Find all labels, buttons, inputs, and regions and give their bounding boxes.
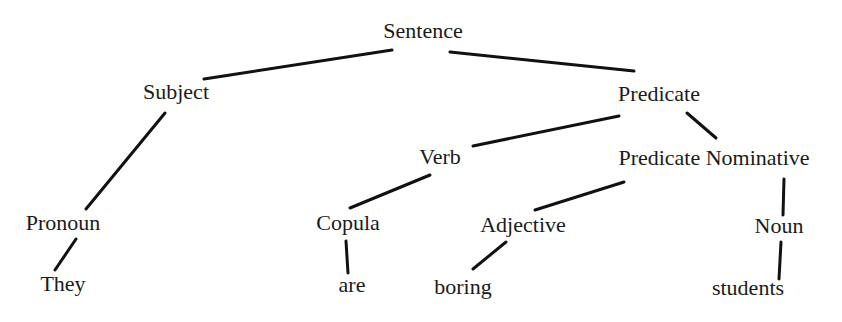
- edge-noun-students: [779, 242, 781, 279]
- node-predicate: Predicate: [618, 83, 700, 105]
- leaf-they: They: [40, 273, 85, 295]
- node-adjective: Adjective: [480, 214, 566, 236]
- edge-prednom-adjective: [535, 182, 624, 210]
- edge-sentence-predicate: [450, 52, 634, 71]
- node-subject: Subject: [143, 81, 209, 103]
- node-copula: Copula: [316, 212, 380, 234]
- edge-copula-are: [346, 241, 348, 273]
- parse-tree-diagram: Sentence Subject Predicate Verb Predicat…: [0, 0, 842, 322]
- edge-sentence-subject: [204, 50, 392, 79]
- node-sentence: Sentence: [383, 20, 462, 42]
- leaf-are: are: [339, 274, 366, 296]
- leaf-boring: boring: [434, 276, 491, 298]
- edge-pronoun-they: [55, 239, 76, 270]
- node-noun: Noun: [755, 215, 804, 237]
- node-verb: Verb: [419, 146, 461, 168]
- node-pronoun: Pronoun: [26, 212, 101, 234]
- node-predicate-nominative: Predicate Nominative: [618, 147, 809, 169]
- edge-predicate-prednom: [687, 113, 716, 138]
- edge-subject-pronoun: [86, 113, 165, 209]
- edge-predicate-verb: [473, 116, 619, 146]
- edge-adjective-boring: [473, 242, 506, 269]
- leaf-students: students: [712, 277, 784, 299]
- edge-prednom-noun: [783, 179, 784, 215]
- edge-verb-copula: [350, 175, 430, 208]
